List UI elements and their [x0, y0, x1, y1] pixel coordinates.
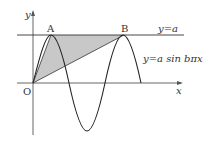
y-axis-arrow-icon	[31, 10, 35, 16]
line-label: y=a	[157, 23, 178, 34]
sine-diagram: y x O A B y=a y=a sin bπx	[0, 0, 209, 146]
curve-label: y=a sin bπx	[142, 53, 203, 64]
x-axis-label: x	[176, 85, 182, 96]
y-axis-label: y	[24, 9, 31, 20]
point-a-label: A	[46, 23, 55, 34]
origin-label: O	[23, 86, 31, 97]
point-b-label: B	[121, 23, 128, 34]
